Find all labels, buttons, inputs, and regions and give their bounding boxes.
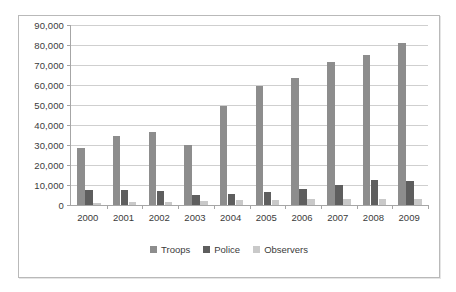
x-axis-tick-labels: 2000200120022003200420052006200720082009 [70, 212, 427, 228]
legend-label: Troops [161, 244, 190, 255]
y-axis-tick-label: 40,000 [34, 120, 64, 131]
bar-group [256, 25, 280, 205]
bar-police-2000[interactable] [85, 190, 93, 205]
bar-troops-2000[interactable] [77, 148, 85, 205]
legend-item-troops[interactable]: Troops [150, 244, 190, 255]
chart-legend: TroopsPoliceObservers [19, 244, 439, 255]
y-axis-tick-label: 20,000 [34, 160, 64, 171]
x-axis-tick-mark [214, 205, 215, 209]
bar-group [113, 25, 137, 205]
bar-observers-2008[interactable] [379, 199, 387, 205]
x-axis-tick-mark [321, 205, 322, 209]
bar-group [291, 25, 315, 205]
bar-troops-2009[interactable] [398, 43, 406, 205]
chart-plot-area [70, 25, 428, 206]
bar-police-2006[interactable] [299, 189, 307, 205]
chart-frame: 010,00020,00030,00040,00050,00060,00070,… [18, 15, 440, 278]
x-axis-tick-label-2001: 2001 [113, 212, 134, 223]
x-axis-tick-mark [392, 205, 393, 209]
legend-swatch-troops-icon [150, 246, 157, 253]
bar-police-2003[interactable] [192, 195, 200, 205]
bar-observers-2006[interactable] [307, 199, 315, 205]
y-axis-tick-mark [67, 25, 71, 26]
x-axis-tick-label-2000: 2000 [77, 212, 98, 223]
bar-troops-2008[interactable] [363, 55, 371, 205]
x-axis-tick-mark [107, 205, 108, 209]
legend-label: Police [214, 244, 240, 255]
chart-plot-wrapper: 010,00020,00030,00040,00050,00060,00070,… [19, 16, 439, 277]
y-axis-tick-label: 60,000 [34, 80, 64, 91]
bar-troops-2002[interactable] [149, 132, 157, 205]
bar-troops-2006[interactable] [291, 78, 299, 205]
x-axis-tick-label-2004: 2004 [220, 212, 241, 223]
bar-observers-2007[interactable] [343, 199, 351, 205]
bar-police-2005[interactable] [264, 192, 272, 205]
y-axis-tick-mark [67, 105, 71, 106]
bar-police-2001[interactable] [121, 190, 129, 205]
y-axis-tick-mark [67, 185, 71, 186]
bar-group [184, 25, 208, 205]
y-axis-tick-label: 10,000 [34, 180, 64, 191]
bar-police-2007[interactable] [335, 185, 343, 205]
legend-item-observers[interactable]: Observers [253, 244, 308, 255]
y-axis-tick-labels: 010,00020,00030,00040,00050,00060,00070,… [19, 25, 67, 205]
y-axis-tick-mark [67, 125, 71, 126]
bar-troops-2003[interactable] [184, 145, 192, 205]
x-axis-tick-label-2007: 2007 [327, 212, 348, 223]
bar-observers-2003[interactable] [200, 201, 208, 205]
x-axis-tick-label-2008: 2008 [363, 212, 384, 223]
bar-group [327, 25, 351, 205]
bar-observers-2001[interactable] [129, 202, 137, 205]
x-axis-tick-label-2003: 2003 [184, 212, 205, 223]
bar-observers-2004[interactable] [236, 200, 244, 205]
x-axis-tick-label-2006: 2006 [291, 212, 312, 223]
x-axis-tick-mark [428, 205, 429, 209]
x-axis-tick-mark [250, 205, 251, 209]
bar-troops-2005[interactable] [256, 86, 264, 205]
y-axis-tick-label: 80,000 [34, 40, 64, 51]
y-axis-tick-label: 50,000 [34, 100, 64, 111]
bar-police-2008[interactable] [371, 180, 379, 205]
x-axis-tick-mark [142, 205, 143, 209]
bar-group [77, 25, 101, 205]
bar-observers-2002[interactable] [165, 202, 173, 205]
bar-group [220, 25, 244, 205]
y-axis-tick-label: 70,000 [34, 60, 64, 71]
x-axis-tick-label-2005: 2005 [256, 212, 277, 223]
bar-observers-2000[interactable] [93, 203, 101, 205]
x-axis-tick-mark [178, 205, 179, 209]
legend-swatch-observers-icon [253, 246, 260, 253]
y-axis-tick-mark [67, 145, 71, 146]
bar-police-2002[interactable] [157, 191, 165, 205]
bar-group [149, 25, 173, 205]
legend-swatch-police-icon [203, 246, 210, 253]
x-axis-tick-mark [357, 205, 358, 209]
y-axis-tick-mark [67, 65, 71, 66]
bar-group [363, 25, 387, 205]
bar-troops-2004[interactable] [220, 106, 228, 205]
y-axis-tick-label: 0 [59, 200, 64, 211]
bar-police-2009[interactable] [406, 181, 414, 205]
y-axis-tick-label: 90,000 [34, 20, 64, 31]
bar-troops-2001[interactable] [113, 136, 121, 205]
legend-label: Observers [264, 244, 308, 255]
legend-item-police[interactable]: Police [203, 244, 240, 255]
x-axis-tick-label-2009: 2009 [399, 212, 420, 223]
bar-group [398, 25, 422, 205]
y-axis-tick-mark [67, 85, 71, 86]
bar-troops-2007[interactable] [327, 62, 335, 205]
y-axis-tick-mark [67, 45, 71, 46]
x-axis-tick-mark [285, 205, 286, 209]
bar-police-2004[interactable] [228, 194, 236, 205]
bar-observers-2009[interactable] [414, 199, 422, 205]
y-axis-tick-label: 30,000 [34, 140, 64, 151]
x-axis-tick-label-2002: 2002 [149, 212, 170, 223]
y-axis-tick-mark [67, 205, 71, 206]
y-axis-tick-mark [67, 165, 71, 166]
bar-observers-2005[interactable] [272, 200, 280, 205]
